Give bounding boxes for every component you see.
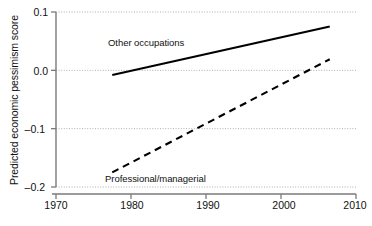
plot-area (0, 0, 372, 226)
gridlines (56, 12, 356, 187)
series-line-0 (112, 27, 330, 75)
series-line-1 (112, 59, 330, 172)
axis-ticks (51, 12, 356, 199)
data-series (112, 27, 330, 173)
axis-spines (52, 12, 356, 194)
chart-container: Predicted economic pessimism score 0.1 0… (0, 0, 372, 226)
